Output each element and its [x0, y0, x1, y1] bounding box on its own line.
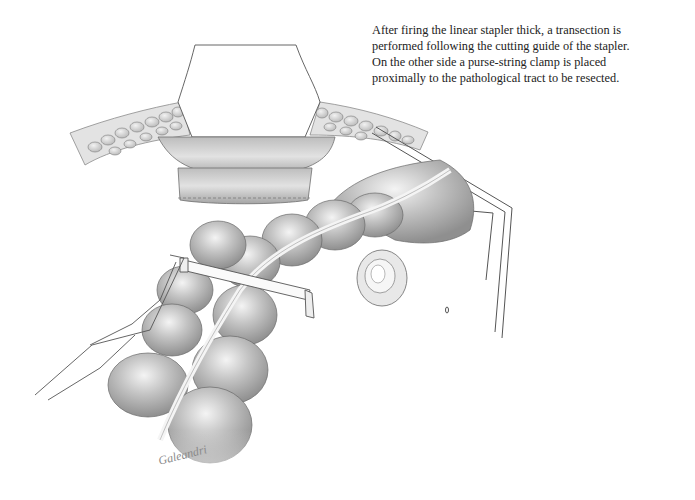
bowel-loop	[108, 160, 474, 463]
protector-lower-cuff	[178, 168, 312, 204]
retractor-blade	[178, 45, 320, 137]
surgical-illustration	[0, 0, 695, 500]
stapled-bowel-end	[357, 250, 407, 306]
